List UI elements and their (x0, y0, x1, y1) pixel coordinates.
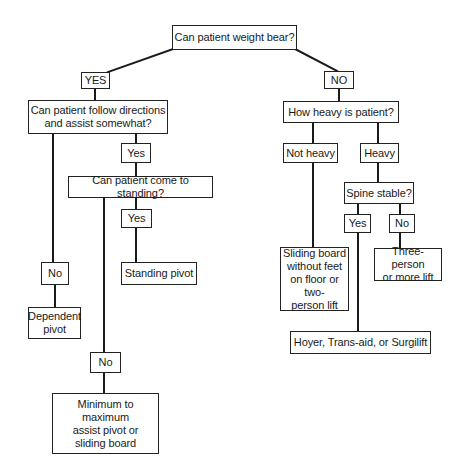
node-label: How heavy is patient? (288, 106, 394, 119)
node-label: Spine stable? (346, 187, 411, 200)
node-can-weight-bear: Can patient weight bear? (172, 25, 297, 50)
node-follow-yes: Yes (121, 143, 151, 163)
node-standing-pivot: Standing pivot (121, 262, 197, 285)
node-heavy: Heavy (360, 143, 399, 163)
node-label: No (99, 356, 113, 369)
node-sliding-board: Sliding board without feet on floor or t… (280, 247, 349, 311)
node-label: Hoyer, Trans-aid, or Surgilift (294, 336, 427, 349)
node-label: No (48, 267, 62, 280)
node-label: Not heavy (286, 147, 335, 160)
node-label: Can patient weight bear? (175, 31, 295, 44)
node-label: Yes (349, 217, 367, 230)
node-follow-no: No (41, 262, 69, 285)
node-label: Can patient follow directions and assist… (31, 104, 166, 130)
edge-root-no (295, 49, 337, 71)
node-label: No (395, 217, 409, 230)
node-come-to-standing: Can patient come to standing? (68, 176, 213, 198)
node-standing-no: No (90, 352, 121, 373)
node-min-max-assist: Minimum to maximum assist pivot or slidi… (52, 393, 159, 454)
edge-root-yes (108, 49, 173, 72)
node-label: Three-person or more lift (376, 245, 440, 284)
node-three-person-lift: Three-person or more lift (374, 248, 442, 281)
node-label: Yes (127, 147, 145, 160)
node-label: Dependent pivot (28, 310, 81, 336)
node-standing-yes: Yes (121, 209, 152, 228)
node-not-heavy: Not heavy (283, 143, 338, 163)
node-dependent-pivot: Dependent pivot (28, 307, 81, 339)
node-label: Minimum to maximum assist pivot or slidi… (54, 398, 157, 450)
node-label: Standing pivot (125, 267, 193, 280)
node-spine-stable: Spine stable? (344, 182, 414, 204)
node-label: Heavy (364, 147, 395, 160)
node-spine-no: No (389, 214, 415, 233)
node-how-heavy: How heavy is patient? (283, 101, 399, 123)
node-no-top: NO (324, 71, 354, 89)
node-follow-directions: Can patient follow directions and assist… (28, 100, 168, 134)
node-label: Yes (128, 212, 146, 225)
node-spine-yes: Yes (344, 214, 371, 233)
node-label: Sliding board without feet on floor or t… (282, 247, 347, 312)
node-hoyer: Hoyer, Trans-aid, or Surgilift (290, 331, 431, 354)
node-yes-top: YES (81, 72, 110, 89)
node-label: YES (85, 74, 107, 87)
node-label: NO (331, 74, 347, 87)
node-label: Can patient come to standing? (70, 174, 211, 200)
